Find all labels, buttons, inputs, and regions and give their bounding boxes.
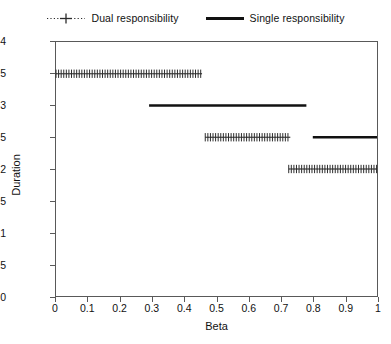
legend-label-dual: Dual responsibility	[91, 12, 178, 24]
y-tick-label: 1	[0, 227, 6, 239]
y-tick-mark	[50, 137, 55, 138]
x-axis-title: Beta	[55, 320, 378, 332]
chart-figure: Dual responsibility Single responsibilit…	[0, 0, 391, 344]
x-tick-label: 0.3	[145, 302, 160, 314]
x-tick-label: 0.9	[338, 302, 353, 314]
y-tick-mark	[50, 41, 55, 42]
x-tick-label: 0.1	[80, 302, 95, 314]
x-tick-label: 0	[52, 302, 58, 314]
y-tick-mark	[50, 73, 55, 74]
y-tick-label: 3	[0, 99, 6, 111]
series-single	[149, 106, 377, 138]
y-tick-label: 2	[0, 163, 6, 175]
x-tick-label: 0.2	[112, 302, 127, 314]
x-tick-label: 0.5	[209, 302, 224, 314]
y-tick-label: 4	[0, 35, 6, 47]
y-tick-label: 1.5	[0, 195, 6, 207]
y-axis-title: Duration	[10, 115, 22, 235]
solid-line-marker-icon	[205, 13, 245, 24]
x-tick-label: 0.4	[177, 302, 192, 314]
legend-label-single: Single responsibility	[250, 12, 345, 24]
dotted-plus-marker-icon	[46, 13, 86, 24]
legend-entry-single: Single responsibility	[205, 12, 345, 24]
y-tick-label: 0	[0, 291, 6, 303]
y-tick-mark	[50, 105, 55, 106]
legend-entry-dual: Dual responsibility	[46, 12, 178, 24]
y-tick-mark	[50, 201, 55, 202]
y-tick-label: 3.5	[0, 67, 6, 79]
y-tick-label: 2.5	[0, 131, 6, 143]
series-layer	[56, 42, 377, 296]
y-tick-mark	[50, 233, 55, 234]
x-tick-label: 0.7	[274, 302, 289, 314]
x-tick-label: 0.8	[306, 302, 321, 314]
plot-area	[55, 41, 378, 297]
x-tick-label: 1	[375, 302, 381, 314]
y-tick-mark	[50, 169, 55, 170]
x-tick-label: 0.6	[241, 302, 256, 314]
y-tick-label: 0.5	[0, 259, 6, 271]
chart-legend: Dual responsibility Single responsibilit…	[0, 12, 391, 24]
y-tick-mark	[50, 265, 55, 266]
series-dual	[56, 70, 377, 174]
